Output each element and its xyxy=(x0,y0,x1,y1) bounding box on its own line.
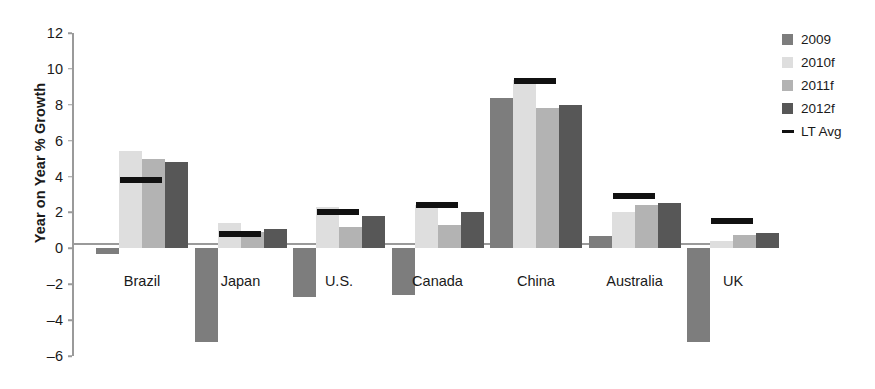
y-tick-label: 6 xyxy=(55,133,63,149)
chart-legend: 20092010f2011f2012fLT Avg xyxy=(782,28,842,143)
bar-group xyxy=(293,26,385,356)
legend-square-icon xyxy=(782,34,793,45)
legend-item[interactable]: 2011f xyxy=(782,74,842,97)
bar xyxy=(415,205,438,248)
bar xyxy=(612,212,635,248)
y-tick-mark xyxy=(68,104,72,106)
bar xyxy=(635,205,658,248)
bar-chart: Year on Year % Growth 121086420–2–4–6 Br… xyxy=(0,0,875,389)
legend-item[interactable]: 2009 xyxy=(782,28,842,51)
y-tick-label: –6 xyxy=(47,348,63,364)
y-tick-mark xyxy=(68,212,72,214)
y-tick-label: 2 xyxy=(55,204,63,220)
bar-group xyxy=(195,26,287,356)
bar xyxy=(513,80,536,249)
legend-label: 2011f xyxy=(801,78,834,93)
bar-group xyxy=(392,26,484,356)
lt-avg-marker xyxy=(711,218,753,224)
bar xyxy=(490,98,513,249)
y-tick-label: 8 xyxy=(55,97,63,113)
y-tick-mark xyxy=(68,176,72,178)
bar xyxy=(710,241,733,248)
bar-group xyxy=(687,26,779,356)
legend-square-icon xyxy=(782,80,793,91)
bar xyxy=(438,225,461,248)
y-tick-label: 10 xyxy=(47,61,63,77)
bar xyxy=(559,105,582,249)
x-axis-label: UK xyxy=(663,273,803,289)
lt-avg-marker xyxy=(613,193,655,199)
y-tick-mark xyxy=(68,68,72,70)
bar xyxy=(142,159,165,249)
lt-avg-marker xyxy=(416,202,458,208)
y-tick-label: 0 xyxy=(55,240,63,256)
y-tick-mark xyxy=(68,248,72,250)
bar xyxy=(687,248,710,341)
legend-item[interactable]: 2012f xyxy=(782,97,842,120)
y-tick-label: 4 xyxy=(55,169,63,185)
plot-area: 121086420–2–4–6 BrazilJapanU.S.CanadaChi… xyxy=(72,26,762,356)
legend-label: 2009 xyxy=(801,32,831,47)
y-tick-mark xyxy=(68,140,72,142)
lt-avg-marker xyxy=(219,231,261,237)
bar-group xyxy=(490,26,582,356)
bar xyxy=(165,162,188,248)
legend-label: LT Avg xyxy=(801,124,842,139)
y-tick-mark xyxy=(68,319,72,321)
y-tick-label: –4 xyxy=(47,312,63,328)
bar xyxy=(733,235,756,248)
legend-label: 2010f xyxy=(801,55,835,70)
y-axis-title: Year on Year % Growth xyxy=(32,63,48,263)
bar xyxy=(264,229,287,248)
legend-item[interactable]: LT Avg xyxy=(782,120,842,143)
lt-avg-marker xyxy=(317,209,359,215)
legend-label: 2012f xyxy=(801,101,835,116)
legend-item[interactable]: 2010f xyxy=(782,51,842,74)
bar xyxy=(362,216,385,248)
bar-group xyxy=(96,26,188,356)
bar xyxy=(589,236,612,249)
y-axis-line xyxy=(72,33,74,356)
bar xyxy=(756,233,779,248)
bar xyxy=(339,227,362,249)
y-tick-label: 12 xyxy=(47,25,63,41)
legend-line-icon xyxy=(782,130,794,134)
bar xyxy=(96,248,119,253)
legend-square-icon xyxy=(782,57,793,68)
bar-group xyxy=(589,26,681,356)
lt-avg-marker xyxy=(120,177,162,183)
y-tick-label: –2 xyxy=(47,276,63,292)
lt-avg-marker xyxy=(514,78,556,84)
y-tick-mark xyxy=(68,355,72,357)
legend-square-icon xyxy=(782,103,793,114)
bar xyxy=(658,203,681,248)
bar xyxy=(195,248,218,341)
y-tick-mark xyxy=(68,32,72,34)
bar xyxy=(536,108,559,248)
bar xyxy=(461,212,484,248)
bar xyxy=(119,151,142,248)
